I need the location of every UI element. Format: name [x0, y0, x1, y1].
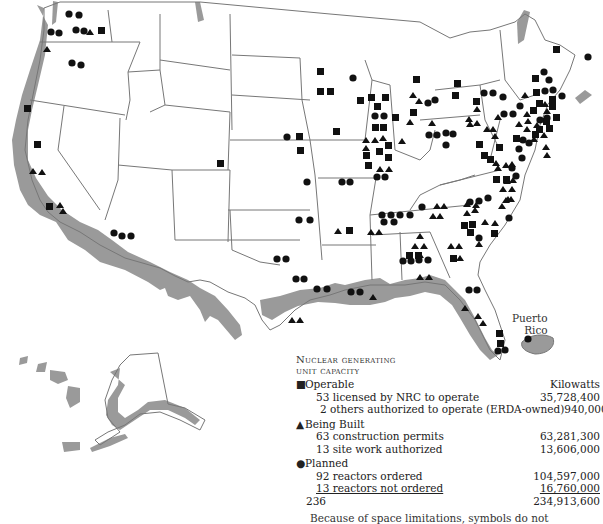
legend-subtitle: unit capacity	[296, 365, 600, 376]
legend-row: 53 licensed by NRC to operate 35,728,400	[296, 391, 600, 404]
total-value: 234,913,600	[533, 495, 600, 508]
legend-title: Nuclear generating	[296, 354, 600, 365]
legend-row: 92 reactors ordered 104,597,000	[296, 470, 600, 483]
circle-icon: ●	[296, 457, 305, 470]
footnote: Because of space limitations, symbols do…	[310, 512, 548, 524]
square-icon: ■	[296, 378, 305, 391]
legend-category-operable: ■Operable Kilowatts	[296, 378, 600, 391]
total-count: 236	[306, 495, 326, 508]
triangle-icon: ▲	[296, 418, 305, 431]
legend-row: 63 construction permits 63,281,300	[296, 430, 600, 443]
legend-category-planned: ●Planned	[296, 457, 600, 470]
puerto-rico-label: Puerto Rico	[512, 312, 548, 336]
legend: Nuclear generating unit capacity ■Operab…	[296, 354, 600, 507]
being-built-symbols	[29, 29, 551, 326]
legend-category-being-built: ▲Being Built	[296, 418, 600, 431]
legend-total-row: 236 234,913,600	[296, 495, 600, 508]
units-header: Kilowatts	[550, 378, 600, 391]
legend-row: 13 reactors not ordered 16,760,000	[296, 482, 600, 495]
legend-row: 2 others authorized to operate (ERDA-own…	[296, 403, 600, 416]
legend-row: 13 site work authorized 13,606,000	[296, 443, 600, 456]
